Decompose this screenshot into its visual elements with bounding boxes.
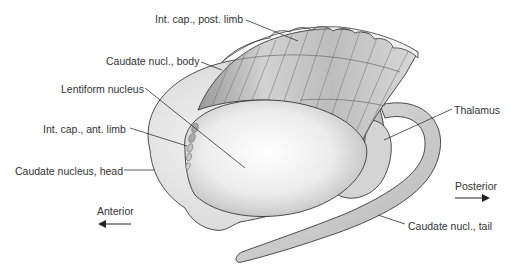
- lentiform-nucleus-shape: [185, 100, 367, 217]
- label-anterior: Anterior: [97, 205, 134, 217]
- anterior-arrow-icon: [98, 220, 131, 228]
- label-lentiform-nucleus: Lentiform nucleus: [61, 83, 144, 95]
- label-thalamus: Thalamus: [454, 104, 500, 116]
- label-caudate-nucl-body: Caudate nucl., body: [106, 55, 199, 67]
- posterior-arrow-icon: [455, 194, 490, 202]
- label-posterior: Posterior: [455, 180, 497, 192]
- label-caudate-nucl-tail: Caudate nucl., tail: [408, 220, 492, 232]
- label-caudate-nucleus-head: Caudate nucleus, head: [15, 165, 123, 177]
- label-int-cap-post-limb: Int. cap., post. limb: [155, 13, 243, 25]
- label-int-cap-ant-limb: Int. cap., ant. limb: [43, 123, 126, 135]
